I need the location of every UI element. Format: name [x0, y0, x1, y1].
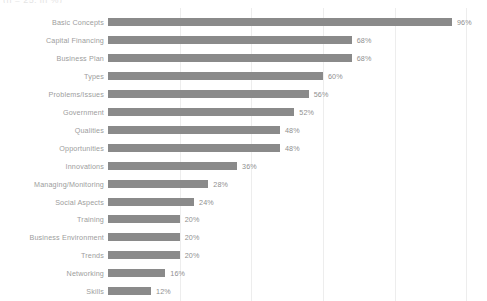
- bar-row: Basic Concepts96%: [0, 14, 487, 32]
- bar-row: Managing/Monitoring28%: [0, 176, 487, 194]
- bar-row: Skills12%: [0, 283, 487, 301]
- value-label: 52%: [299, 104, 314, 122]
- bar-row: Social Aspects24%: [0, 194, 487, 212]
- bar: [108, 36, 352, 44]
- category-label: Networking: [67, 265, 104, 283]
- category-label: Types: [84, 68, 104, 86]
- category-label: Government: [63, 104, 104, 122]
- bar-row: Types60%: [0, 68, 487, 86]
- value-label: 68%: [357, 50, 372, 68]
- category-label: Qualities: [75, 122, 104, 140]
- bar: [108, 180, 208, 188]
- value-label: 36%: [242, 158, 257, 176]
- value-label: 28%: [213, 176, 228, 194]
- bar-row: Problems/Issues56%: [0, 86, 487, 104]
- category-label: Trends: [81, 247, 104, 265]
- value-label: 68%: [357, 32, 372, 50]
- value-label: 56%: [314, 86, 329, 104]
- bar-row: Training20%: [0, 211, 487, 229]
- bar: [108, 215, 180, 223]
- value-label: 24%: [199, 194, 214, 212]
- bar-row: Business Environment20%: [0, 229, 487, 247]
- bar-row: Capital Financing68%: [0, 32, 487, 50]
- bar: [108, 251, 180, 259]
- bar-row: Opportunities48%: [0, 140, 487, 158]
- bar-chart: (n = 25, in %) Basic Concepts96%Capital …: [0, 0, 487, 301]
- value-label: 60%: [328, 68, 343, 86]
- category-label: Business Plan: [57, 50, 105, 68]
- category-label: Capital Financing: [46, 32, 104, 50]
- category-label: Problems/Issues: [49, 86, 104, 104]
- bar: [108, 233, 180, 241]
- value-label: 16%: [170, 265, 185, 283]
- category-label: Social Aspects: [55, 194, 104, 212]
- category-label: Skills: [86, 283, 104, 301]
- value-label: 20%: [185, 211, 200, 229]
- bar-row: Trends20%: [0, 247, 487, 265]
- value-label: 48%: [285, 122, 300, 140]
- bar: [108, 108, 294, 116]
- bar: [108, 90, 309, 98]
- value-label: 12%: [156, 283, 171, 301]
- bar: [108, 72, 323, 80]
- value-label: 48%: [285, 140, 300, 158]
- category-label: Opportunities: [59, 140, 104, 158]
- value-label: 20%: [185, 247, 200, 265]
- category-label: Basic Concepts: [52, 14, 104, 32]
- value-label: 96%: [457, 14, 472, 32]
- bar: [108, 269, 165, 277]
- value-label: 20%: [185, 229, 200, 247]
- bar-row: Qualities48%: [0, 122, 487, 140]
- bar-row: Innovations36%: [0, 158, 487, 176]
- category-label: Managing/Monitoring: [34, 176, 104, 194]
- category-label: Training: [77, 211, 104, 229]
- bar: [108, 54, 352, 62]
- bar: [108, 18, 452, 26]
- bar: [108, 287, 151, 295]
- category-label: Innovations: [66, 158, 104, 176]
- bar: [108, 126, 280, 134]
- bar-row: Government52%: [0, 104, 487, 122]
- bar-row: Networking16%: [0, 265, 487, 283]
- bar: [108, 162, 237, 170]
- bar: [108, 198, 194, 206]
- plot-area: Basic Concepts96%Capital Financing68%Bus…: [0, 0, 487, 301]
- category-label: Business Environment: [29, 229, 104, 247]
- bar: [108, 144, 280, 152]
- bar-row: Business Plan68%: [0, 50, 487, 68]
